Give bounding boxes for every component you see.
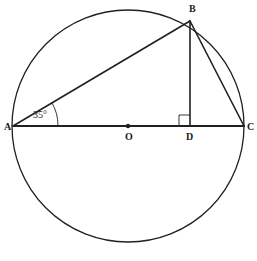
vertex-label-c: C bbox=[247, 122, 254, 132]
vertex-label-a: A bbox=[4, 122, 11, 132]
vertex-label-b: B bbox=[189, 4, 196, 14]
vertex-label-d: D bbox=[186, 132, 193, 142]
geometry-diagram: A B C O D 35° bbox=[0, 0, 257, 261]
angle-measure-label: 35° bbox=[33, 110, 47, 120]
center-point-dot bbox=[126, 124, 130, 128]
vertex-label-o: O bbox=[125, 132, 133, 142]
